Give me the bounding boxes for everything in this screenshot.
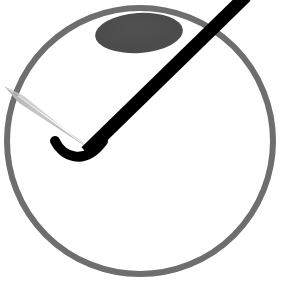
diagram-canvas — [0, 0, 281, 294]
diagram-svg — [0, 0, 281, 294]
